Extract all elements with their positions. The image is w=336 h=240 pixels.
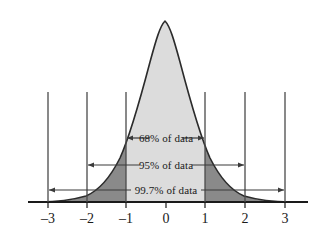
x-tick-label-pos3: 3 (282, 211, 289, 227)
annotation-label-997: 99.7% of data (135, 184, 198, 196)
annotation-label-95: 95% of data (139, 159, 193, 171)
x-tick-label-neg2: –2 (80, 211, 94, 227)
x-tick-label-zero: 0 (163, 211, 170, 227)
x-tick-label-pos1: 1 (202, 211, 209, 227)
x-tick-label-neg1: –1 (119, 211, 133, 227)
distribution-plot (0, 0, 336, 240)
annotation-label-68: 68% of data (139, 132, 193, 144)
x-tick-label-neg3: –3 (41, 211, 55, 227)
normal-distribution-figure: 68% of data 95% of data 99.7% of data –3… (0, 0, 336, 240)
x-tick-label-pos2: 2 (242, 211, 249, 227)
